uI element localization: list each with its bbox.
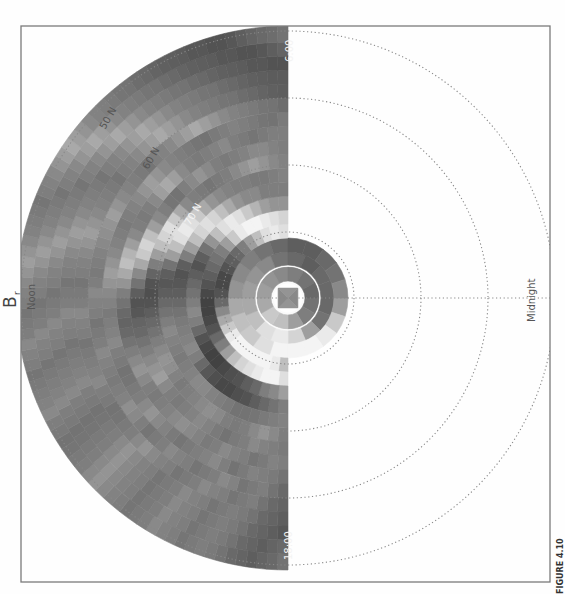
heatmap-cell [116,298,130,308]
heatmap-cell [257,99,269,114]
title-subscript: r [12,291,22,295]
heatmap-cell [158,307,173,318]
heatmap-cell [60,308,75,319]
heatmap-cell [60,287,74,298]
heatmap-cell [277,498,288,512]
heatmap-cell [47,318,62,330]
heatmap-cell [88,298,102,308]
heatmap-cell [75,318,90,330]
heatmap-cell [278,442,288,456]
heatmap-cell [46,277,61,288]
heatmap-cell [186,288,200,298]
heatmap-cell [144,307,159,318]
heatmap-cell [278,98,288,112]
heatmap-cell [267,26,278,43]
heatmap-cell [256,43,268,58]
dusk-label: 18:00 [283,531,294,560]
heatmap-cell [46,308,61,319]
heatmap-cell [278,400,288,414]
heatmap-cell [158,298,172,308]
heatmap-cell [278,224,288,239]
heatmap-cell [88,288,102,298]
heatmap-cell [130,307,145,318]
heatmap-cell [89,317,104,329]
title-text: B [0,296,20,308]
heatmap-cells [16,26,348,570]
heatmap-cell [267,84,278,99]
heatmap-cell [278,154,288,168]
heatmap-cell [256,27,268,44]
heatmap-cell [74,277,89,288]
heatmap-cell [130,298,144,308]
heatmap-cell [158,288,172,298]
heatmap-cell [277,512,288,526]
heatmap-cell [116,288,130,298]
heatmap-cell [257,71,269,86]
heatmap-cell [144,288,158,298]
heatmap-cell [267,140,278,155]
polar-plot: B r Noon Midnight 6:00 18:00 70 N 60 N 5… [0,0,565,594]
heatmap-cell [88,308,103,319]
heatmap-cell [186,298,200,308]
heatmap-cell [144,298,158,308]
heatmap-cell [267,553,278,570]
heatmap-cell [278,484,288,498]
heatmap-cell [102,288,116,298]
heatmap-cell [277,84,288,98]
heatmap-cell [172,298,186,308]
heatmap-cell [267,539,278,554]
heatmap-cell [74,287,88,298]
figure-caption: FIGURE 4.10 [556,538,565,594]
heatmap-cell [60,277,75,288]
heatmap-cell [46,298,60,309]
heatmap-cell [33,318,48,330]
heatmap-cell [257,113,269,128]
heatmap-cell [116,308,131,319]
heatmap-cell [130,288,144,298]
heatmap-cell [268,154,279,169]
heatmap-cell [278,210,288,224]
heatmap-cell [278,196,288,210]
heatmap-cell [267,483,278,498]
heatmap-cell [278,126,288,140]
heatmap-cell [214,298,229,308]
heatmap-cell [257,85,269,100]
heatmap-cell [60,298,74,309]
noon-label: Noon [26,284,37,310]
heatmap-cell [278,386,288,400]
heatmap-cell [88,277,103,288]
heatmap-cell [46,287,60,298]
heatmap-cell [74,298,88,309]
heatmap-cell [267,42,278,57]
heatmap-cell [278,414,288,428]
heatmap-cell [278,456,288,470]
heatmap-cell [74,308,89,319]
heatmap-cell [246,44,258,59]
heatmap-cell [17,318,34,330]
heatmap-cell [102,308,117,319]
heatmap-cell [267,511,278,526]
heatmap-cell [267,525,278,540]
plot-title: B r [0,291,22,308]
dawn-label: 6:00 [284,40,295,62]
heatmap-cell [267,497,278,512]
heatmap-cell [278,140,288,154]
heatmap-cell [102,298,116,308]
heatmap-cell [278,112,288,126]
heatmap-cell [278,470,288,484]
heatmap-cell [278,168,288,182]
heatmap-cell [48,328,63,340]
heatmap-cell [277,70,288,84]
heatmap-cell [61,318,76,330]
heatmap-cell [278,182,288,196]
heatmap-cell [268,168,279,183]
heatmap-cell [256,57,268,72]
heatmap-cell [267,56,278,71]
heatmap-cell [172,288,186,298]
heatmap-cell [278,428,288,442]
heatmap-cell [267,98,278,113]
heatmap-cell [34,328,49,340]
heatmap-cell [102,277,117,288]
midnight-label: Midnight [526,278,537,322]
heatmap-cell [267,70,278,85]
